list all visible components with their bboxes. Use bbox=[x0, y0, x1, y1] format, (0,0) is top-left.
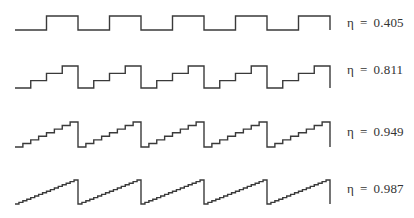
waveform-path bbox=[15, 180, 330, 204]
efficiency-label-4: η=0.987 bbox=[347, 182, 404, 196]
efficiency-value: 0.987 bbox=[374, 181, 404, 196]
efficiency-label-2: η=0.811 bbox=[347, 63, 403, 77]
equals-sign: = bbox=[360, 181, 368, 196]
waveform-path bbox=[15, 122, 330, 147]
efficiency-label-3: η=0.949 bbox=[347, 125, 404, 139]
equals-sign: = bbox=[360, 124, 368, 139]
waveform-path bbox=[15, 16, 330, 30]
equals-sign: = bbox=[360, 15, 368, 30]
efficiency-value: 0.405 bbox=[374, 15, 404, 30]
eta-symbol: η bbox=[347, 15, 354, 30]
waveform-8-level bbox=[15, 122, 330, 147]
efficiency-value: 0.949 bbox=[374, 124, 404, 139]
eta-symbol: η bbox=[347, 181, 354, 196]
waveform-path bbox=[15, 66, 330, 88]
efficiency-value: 0.811 bbox=[374, 62, 404, 77]
eta-symbol: η bbox=[347, 62, 354, 77]
efficiency-label-1: η=0.405 bbox=[347, 16, 404, 30]
waveform-4-level bbox=[15, 66, 330, 88]
eta-symbol: η bbox=[347, 124, 354, 139]
waveform-2-level bbox=[15, 16, 330, 30]
waveform-16-level bbox=[15, 180, 330, 204]
equals-sign: = bbox=[360, 62, 368, 77]
